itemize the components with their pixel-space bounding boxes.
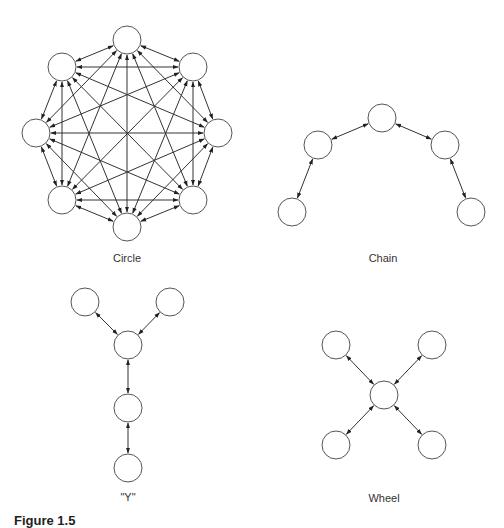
network-node [322, 331, 350, 359]
network-node [204, 119, 232, 147]
network-node [179, 186, 207, 214]
network-node [113, 213, 141, 241]
bidirectional-arrow [346, 356, 373, 384]
bidirectional-arrow [139, 313, 160, 335]
bidirectional-arrow [198, 147, 213, 186]
network-node [71, 288, 99, 316]
network-node [114, 331, 142, 359]
bidirectional-arrow [42, 81, 57, 119]
y-network [71, 288, 184, 482]
network-node [322, 431, 350, 459]
bidirectional-arrow [41, 147, 56, 186]
figure-caption: Figure 1.5 [14, 514, 75, 528]
network-node [418, 431, 446, 459]
bidirectional-arrow [96, 313, 118, 335]
chain-label: Chain [369, 252, 398, 264]
wheel-network [322, 331, 446, 459]
bidirectional-arrow [76, 206, 113, 221]
circle-network [22, 26, 232, 241]
bidirectional-arrow [198, 81, 212, 119]
network-node [179, 53, 207, 81]
network-node [156, 288, 184, 316]
network-node [278, 198, 306, 226]
chain-network [278, 104, 485, 226]
network-node [48, 53, 76, 81]
network-node [114, 394, 142, 422]
network-node [368, 104, 396, 132]
network-node [457, 198, 485, 226]
network-node [22, 119, 50, 147]
wheel-label: Wheel [368, 492, 399, 504]
network-node [113, 26, 141, 54]
bidirectional-arrow [141, 46, 179, 62]
bidirectional-arrow [394, 356, 421, 384]
bidirectional-arrow [394, 406, 421, 434]
network-node [431, 131, 459, 159]
bidirectional-arrow [76, 46, 113, 61]
bidirectional-arrow [346, 406, 373, 434]
network-node [48, 186, 76, 214]
bidirectional-arrow [332, 124, 368, 139]
bidirectional-arrow [450, 159, 465, 198]
network-node [304, 131, 332, 159]
bidirectional-arrow [396, 124, 431, 139]
network-node [370, 381, 398, 409]
network-node [114, 454, 142, 482]
bidirectional-arrow [141, 206, 179, 222]
network-node [418, 331, 446, 359]
circle-label: Circle [113, 252, 141, 264]
y-label: "Y" [120, 491, 135, 503]
bidirectional-arrow [297, 159, 312, 198]
